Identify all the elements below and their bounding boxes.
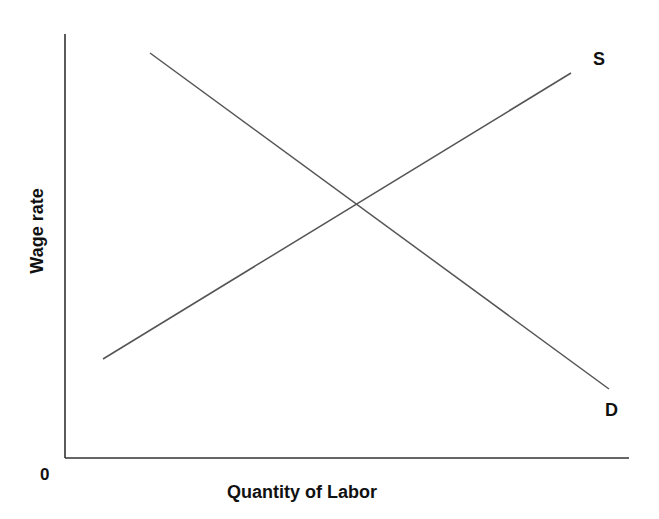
x-axis-title: Quantity of Labor bbox=[227, 482, 377, 503]
demand-curve bbox=[150, 53, 609, 389]
y-axis-title: Wage rate bbox=[27, 188, 48, 273]
supply-curve-label: S bbox=[593, 49, 605, 70]
supply-curve bbox=[103, 73, 571, 359]
origin-label: 0 bbox=[40, 465, 49, 485]
demand-curve-label: D bbox=[605, 400, 618, 421]
chart-canvas bbox=[0, 0, 659, 519]
